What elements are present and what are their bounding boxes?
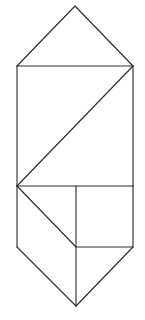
segment-top-left-roof: [17, 6, 75, 66]
segment-bottom-left-edge: [17, 247, 76, 306]
segment-bottom-right-edge: [76, 247, 133, 306]
segment-top-right-roof: [75, 6, 133, 66]
figure-segments: [17, 6, 133, 306]
segment-lower-diagonal: [17, 186, 76, 247]
segment-upper-diagonal: [17, 66, 133, 186]
tangram-figure: [0, 0, 145, 320]
